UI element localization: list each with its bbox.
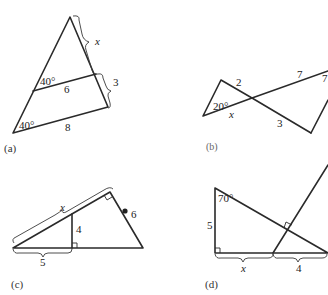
label-angle-bottom-a: 40° [19,119,34,131]
label-x-a: x [94,35,100,47]
label-4-c: 4 [76,223,82,235]
label-8-a: 8 [65,121,71,133]
point-marker-c [122,208,127,213]
label-6-c: 6 [131,208,137,220]
label-3-a: 3 [113,76,119,88]
caption-a: (a) [4,142,17,155]
caption-b: (b) [206,141,218,153]
label-x-c: x [59,201,65,213]
caption-c: (c) [11,278,24,291]
label-x-b: x [228,108,234,120]
label-6-a: 6 [64,83,70,95]
right-side-b [311,100,328,133]
triangle-c [13,192,143,248]
label-7-b: 7 [297,68,303,80]
brace-x-c [13,188,113,243]
right-angle-mark-top-c [104,195,112,200]
label-7-edge-b: 7 [322,72,328,84]
brace-4-d [273,254,327,262]
label-angle-d: 70° [218,192,233,204]
figure-b: 2 7 7 20° x 3 (b) [203,68,328,153]
brace-3-a [98,74,111,108]
figure-a: x 40° 6 3 40° 8 (a) [4,16,119,155]
label-angle-upper-a: 40° [40,75,55,87]
perpendicular-line-d [273,165,328,253]
line-7-b [252,71,328,98]
geometry-figures: x 40° 6 3 40° 8 (a) 2 7 7 20° x 3 (b) x [0,0,328,295]
label-2-b: 2 [236,76,242,88]
label-angle-b: 20° [213,100,228,112]
figure-d: 70° 5 x 4 (d) [205,165,328,291]
figure-c: x 4 6 5 (c) [11,188,143,291]
label-4-d: 4 [296,262,302,274]
brace-x-d [215,254,273,262]
caption-d: (d) [205,278,218,291]
label-3-b: 3 [277,117,283,129]
label-5-c: 5 [40,256,46,268]
label-x-d: x [240,262,246,274]
label-5-d: 5 [207,219,213,231]
